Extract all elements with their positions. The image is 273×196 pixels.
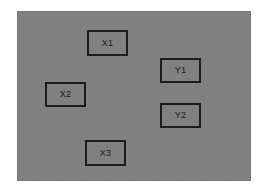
- node-x3-label: X3: [100, 149, 111, 158]
- node-y1[interactable]: Y1: [160, 58, 201, 83]
- node-x2[interactable]: X2: [45, 82, 86, 107]
- node-x1[interactable]: X1: [87, 30, 128, 56]
- node-y2[interactable]: Y2: [160, 103, 201, 128]
- diagram-canvas[interactable]: X1 Y1 X2 Y2 X3: [17, 11, 251, 181]
- diagram-root: X1 Y1 X2 Y2 X3: [0, 0, 273, 196]
- node-x1-label: X1: [102, 39, 113, 48]
- node-y1-label: Y1: [175, 66, 186, 75]
- node-y2-label: Y2: [175, 111, 186, 120]
- node-x2-label: X2: [60, 90, 71, 99]
- node-x3[interactable]: X3: [85, 140, 126, 166]
